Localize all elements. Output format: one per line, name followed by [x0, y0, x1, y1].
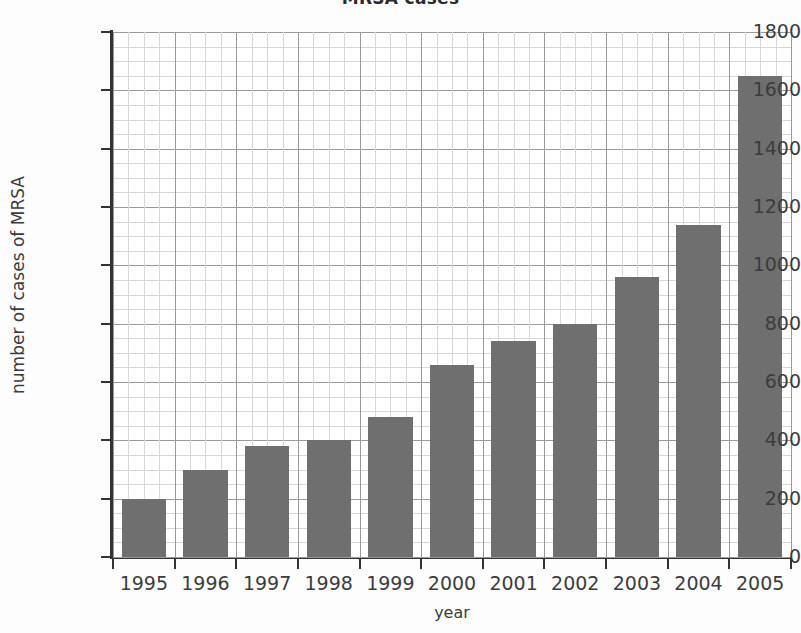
gridline-major-vertical [791, 32, 792, 557]
bar-1997 [245, 446, 289, 557]
x-tick-label: 2003 [602, 572, 672, 594]
x-tick-label: 1996 [170, 572, 240, 594]
x-tick-mark [235, 558, 237, 569]
y-tick-label: 600 [713, 372, 801, 391]
y-tick-label: 1200 [713, 197, 801, 216]
y-tick-label: 1600 [713, 80, 801, 99]
x-tick-mark [420, 558, 422, 569]
x-tick-label: 1998 [294, 572, 364, 594]
gridline-major-vertical [668, 32, 669, 557]
gridline-major-vertical [483, 32, 484, 557]
y-tick-mark [101, 31, 111, 33]
y-tick-mark [101, 381, 111, 383]
chart-title: MRSA cases [0, 0, 801, 4]
gridline-minor-vertical [144, 32, 145, 557]
x-tick-label: 2005 [725, 572, 795, 594]
gridline-major-vertical [298, 32, 299, 557]
y-tick-label: 0 [713, 547, 801, 566]
gridline-major-horizontal [113, 557, 791, 558]
bar-1995 [122, 499, 166, 557]
y-tick-mark [101, 206, 111, 208]
y-tick-mark [101, 264, 111, 266]
y-tick-mark [101, 498, 111, 500]
x-tick-mark [728, 558, 730, 569]
bar-2002 [553, 324, 597, 557]
chart-page: MRSA cases number of cases of MRSA 02004… [0, 0, 801, 633]
x-tick-mark [297, 558, 299, 569]
gridline-minor-vertical [128, 32, 129, 557]
bar-2000 [430, 365, 474, 558]
x-tick-label: 1997 [232, 572, 302, 594]
x-tick-label: 2002 [540, 572, 610, 594]
x-tick-mark [667, 558, 669, 569]
x-tick-mark [790, 558, 792, 569]
y-tick-label: 1800 [713, 22, 801, 41]
y-tick-label: 1000 [713, 255, 801, 274]
x-tick-mark [112, 558, 114, 569]
gridline-major-vertical [729, 32, 730, 557]
y-tick-label: 400 [713, 430, 801, 449]
gridline-major-vertical [236, 32, 237, 557]
x-tick-mark [482, 558, 484, 569]
gridline-major-vertical [113, 32, 114, 557]
plot-area [113, 32, 791, 557]
gridline-major-vertical [544, 32, 545, 557]
y-tick-mark [101, 439, 111, 441]
bar-2001 [491, 341, 535, 557]
bar-1996 [183, 470, 227, 558]
gridline-minor-vertical [159, 32, 160, 557]
gridline-major-vertical [175, 32, 176, 557]
x-tick-mark [359, 558, 361, 569]
y-tick-label: 200 [713, 489, 801, 508]
x-tick-label: 2001 [479, 572, 549, 594]
x-tick-mark [543, 558, 545, 569]
y-axis-title: number of cases of MRSA [8, 75, 28, 495]
y-tick-label: 1400 [713, 139, 801, 158]
x-tick-label: 1999 [355, 572, 425, 594]
x-tick-mark [605, 558, 607, 569]
x-axis-title: year [113, 603, 791, 622]
x-tick-label: 2004 [664, 572, 734, 594]
x-tick-label: 1995 [109, 572, 179, 594]
y-tick-mark [101, 89, 111, 91]
gridline-major-vertical [360, 32, 361, 557]
x-tick-mark [174, 558, 176, 569]
bar-1999 [368, 417, 412, 557]
x-tick-label: 2000 [417, 572, 487, 594]
bar-1998 [307, 440, 351, 557]
y-tick-mark [101, 556, 111, 558]
y-tick-label: 800 [713, 314, 801, 333]
gridline-major-vertical [421, 32, 422, 557]
bar-2003 [615, 277, 659, 557]
y-tick-mark [101, 323, 111, 325]
gridline-major-vertical [606, 32, 607, 557]
y-tick-mark [101, 148, 111, 150]
